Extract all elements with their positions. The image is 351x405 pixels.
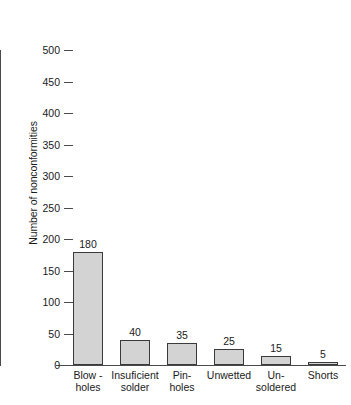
bar [120,340,150,365]
y-tick-label: 300 [18,171,60,181]
y-tick-mark [64,145,73,146]
y-tick-mark [64,208,73,209]
y-axis-line [0,50,1,366]
y-tick-label: 150 [18,266,60,276]
bar-chart: Number of nonconformities 05010015020025… [0,0,351,405]
bar-value-label: 180 [63,239,113,250]
x-axis-category-label: Insuficientsolder [108,370,162,393]
x-axis-category-line: solder [108,382,162,394]
bar [308,362,338,365]
x-axis-category-line: holes [61,382,115,394]
x-axis-category-line: Unwetted [202,370,256,382]
x-axis-category-label: Shorts [296,370,350,382]
y-tick-label: 50 [18,329,60,339]
x-axis-category-line: Blow - [61,370,115,382]
y-tick-mark [64,113,73,114]
bar [73,252,103,365]
y-tick-mark [64,271,73,272]
y-tick-mark [64,302,73,303]
bar-value-label: 5 [298,349,348,360]
x-axis-category-label: Blow -holes [61,370,115,393]
x-axis-category-line: holes [155,382,209,394]
y-tick-label: 400 [18,108,60,118]
x-axis-category-label: Un-soldered [249,370,303,393]
bar-value-label: 25 [204,336,254,347]
x-axis-category-line: Shorts [296,370,350,382]
y-tick-label: 500 [18,45,60,55]
bar [261,356,291,365]
y-tick-label: 200 [18,234,60,244]
y-tick-mark [64,176,73,177]
y-tick-label: 250 [18,203,60,213]
bar-value-label: 15 [251,343,301,354]
y-tick-mark [64,82,73,83]
x-axis-category-label: Unwetted [202,370,256,382]
y-tick-label: 100 [18,297,60,307]
x-axis-category-line: Pin- [155,370,209,382]
y-tick-mark [64,334,73,335]
y-tick-label: 350 [18,140,60,150]
x-axis-category-line: soldered [249,382,303,394]
bar-value-label: 35 [157,330,207,341]
bar [214,349,244,365]
y-tick-label: 450 [18,77,60,87]
y-tick-label: 0 [18,360,60,370]
bar [167,343,197,365]
x-axis-category-line: Un- [249,370,303,382]
bar-value-label: 40 [110,327,160,338]
x-axis-line [56,365,346,366]
x-axis-category-label: Pin-holes [155,370,209,393]
x-axis-category-line: Insuficient [108,370,162,382]
y-tick-mark [64,50,73,51]
